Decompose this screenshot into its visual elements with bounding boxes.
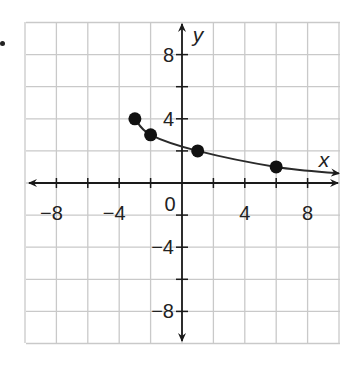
data-point	[128, 112, 141, 125]
data-point	[144, 128, 157, 141]
y-tick-label: 8	[163, 44, 174, 66]
data-point	[191, 144, 204, 157]
tick-labels: −8−44884−4−80xy	[40, 23, 331, 322]
y-tick-label: 4	[163, 108, 174, 130]
x-axis-label: x	[318, 148, 331, 171]
coordinate-plane: −8−44884−4−80xy	[0, 0, 356, 365]
y-axis-label: y	[191, 23, 205, 46]
y-tick-label: −4	[151, 236, 174, 258]
x-tick-label: 4	[239, 202, 250, 224]
y-tick-label: −8	[151, 300, 174, 322]
x-tick-label: −8	[40, 202, 63, 224]
axes	[29, 24, 338, 341]
origin-label: 0	[164, 193, 175, 215]
x-tick-label: −4	[103, 202, 126, 224]
data-point	[270, 160, 283, 173]
x-tick-label: 8	[302, 202, 313, 224]
